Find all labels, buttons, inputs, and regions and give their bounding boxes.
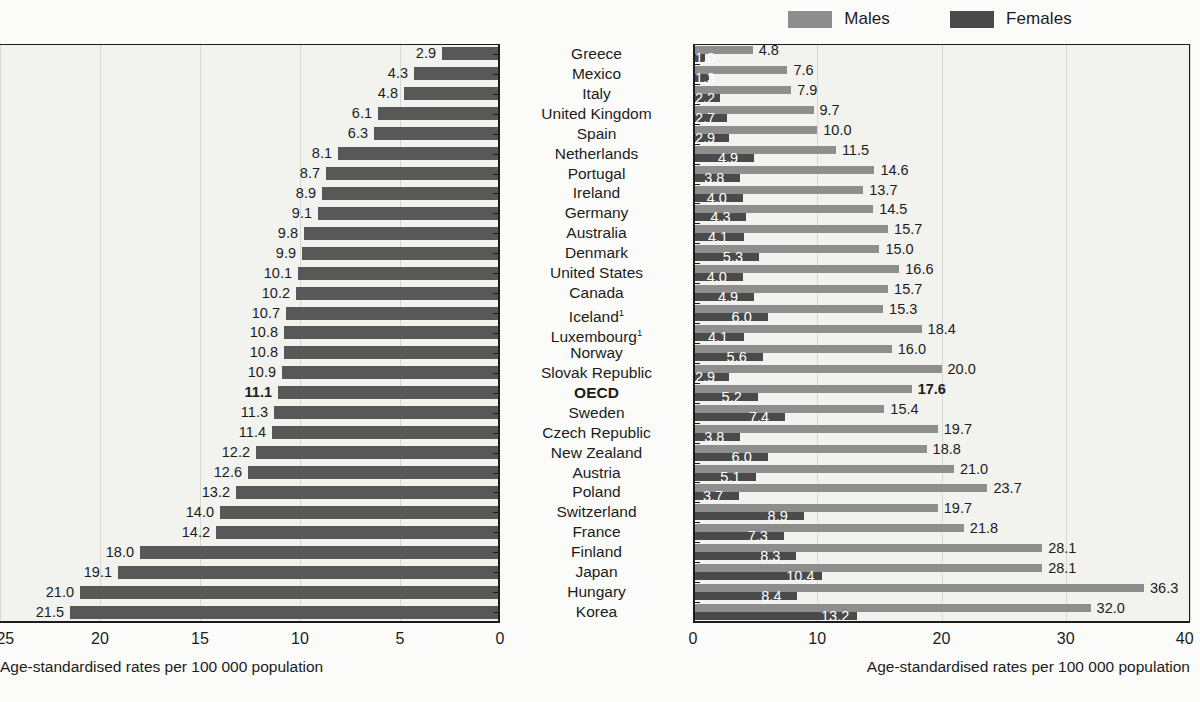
right-x-tick-label: 20 xyxy=(933,630,951,648)
right-chart-panel: 4.81.07.61.37.92.29.72.710.02.911.54.914… xyxy=(693,44,1190,622)
country-name: Iceland xyxy=(569,308,619,325)
total-bar-row: 11.3 xyxy=(0,403,500,423)
gender-bar-row: 15.74.1 xyxy=(693,223,1190,243)
right-x-tick-label: 30 xyxy=(1057,630,1075,648)
country-name: OECD xyxy=(574,384,619,401)
total-bar xyxy=(322,187,500,200)
gender-bar-row: 28.18.3 xyxy=(693,542,1190,562)
country-label: Hungary xyxy=(500,584,693,600)
country-footnote-marker: 1 xyxy=(619,307,624,318)
total-bar xyxy=(302,247,500,260)
country-label: OECD xyxy=(500,385,693,401)
total-bar xyxy=(378,107,500,120)
left-x-tick-label: 5 xyxy=(396,630,405,648)
country-label: Greece xyxy=(500,46,693,62)
country-label: Ireland xyxy=(500,185,693,201)
males-value-label: 14.6 xyxy=(880,164,908,177)
gender-bar-row: 23.73.7 xyxy=(693,482,1190,502)
country-name: Mexico xyxy=(572,65,621,82)
total-bar xyxy=(304,227,500,240)
total-value-label: 10.2 xyxy=(262,287,290,300)
total-bar-row: 21.0 xyxy=(0,582,500,602)
males-value-label: 14.5 xyxy=(879,203,907,216)
gender-bar-row: 28.110.4 xyxy=(693,562,1190,582)
country-label: Finland xyxy=(500,544,693,560)
total-bar xyxy=(404,87,500,100)
country-label: Canada xyxy=(500,285,693,301)
gender-bar-row: 7.92.2 xyxy=(693,84,1190,104)
left-x-tick-label: 15 xyxy=(191,630,209,648)
total-value-label: 6.3 xyxy=(348,127,368,140)
gender-bar-row: 9.72.7 xyxy=(693,104,1190,124)
legend: MalesFemales xyxy=(690,0,1170,38)
females-bar xyxy=(693,453,768,461)
country-name: Sweden xyxy=(568,404,624,421)
gender-bar-row: 15.05.3 xyxy=(693,243,1190,263)
left-chart-panel: 2.94.34.86.16.38.18.78.99.19.89.910.110.… xyxy=(0,44,500,622)
total-bar xyxy=(70,606,500,619)
total-bar-row: 10.1 xyxy=(0,263,500,283)
country-name: Slovak Republic xyxy=(541,364,652,381)
total-value-label: 18.0 xyxy=(106,546,134,559)
country-label: New Zealand xyxy=(500,445,693,461)
males-value-label: 10.0 xyxy=(823,124,851,137)
males-value-label: 28.1 xyxy=(1048,542,1076,555)
country-name: New Zealand xyxy=(551,444,642,461)
total-bar xyxy=(296,287,500,300)
country-label: Japan xyxy=(500,564,693,580)
total-bar-row: 8.9 xyxy=(0,184,500,204)
right-axis-caption: Age-standardised rates per 100 000 popul… xyxy=(867,658,1190,676)
total-value-label: 9.8 xyxy=(278,227,298,240)
country-footnote-marker: 1 xyxy=(637,327,642,338)
total-bar xyxy=(216,526,500,539)
males-bar xyxy=(693,305,883,313)
total-value-label: 4.8 xyxy=(378,87,398,100)
total-bar xyxy=(236,486,500,499)
country-name: Czech Republic xyxy=(542,424,651,441)
total-bar xyxy=(326,167,500,180)
total-value-label: 2.9 xyxy=(416,47,436,60)
total-bar xyxy=(318,207,500,220)
country-name: Ireland xyxy=(573,184,620,201)
country-name: Italy xyxy=(582,85,610,102)
total-value-label: 8.1 xyxy=(312,147,332,160)
females-bar xyxy=(693,413,785,421)
total-bar xyxy=(278,386,500,399)
gender-bar-row: 36.38.4 xyxy=(693,582,1190,602)
total-bar-row: 4.8 xyxy=(0,84,500,104)
total-bar xyxy=(80,586,500,599)
total-value-label: 10.9 xyxy=(248,366,276,379)
country-label: Italy xyxy=(500,86,693,102)
total-bar-row: 6.1 xyxy=(0,104,500,124)
males-bar xyxy=(693,405,884,413)
males-value-label: 15.0 xyxy=(885,243,913,256)
total-bar xyxy=(338,147,500,160)
country-label: Netherlands xyxy=(500,146,693,162)
total-bar-row: 9.9 xyxy=(0,243,500,263)
country-label: United Kingdom xyxy=(500,106,693,122)
gender-bar-row: 21.05.1 xyxy=(693,463,1190,483)
gender-bar-row: 19.78.9 xyxy=(693,502,1190,522)
total-bar xyxy=(272,426,500,439)
left-x-tick-label: 0 xyxy=(496,630,505,648)
total-value-label: 10.7 xyxy=(252,307,280,320)
total-bar-row: 12.6 xyxy=(0,463,500,483)
males-value-label: 36.3 xyxy=(1150,582,1178,595)
total-value-label: 21.0 xyxy=(46,586,74,599)
left-x-tick-label: 10 xyxy=(291,630,309,648)
males-value-label: 21.8 xyxy=(970,522,998,535)
left-x-tick-label: 20 xyxy=(91,630,109,648)
gender-bar-row: 18.86.0 xyxy=(693,443,1190,463)
legend-swatch-males xyxy=(788,11,832,28)
left-plot-area: 2.94.34.86.16.38.18.78.99.19.89.910.110.… xyxy=(0,44,500,622)
males-bar xyxy=(693,484,987,492)
total-bar xyxy=(284,326,500,339)
country-label: Australia xyxy=(500,225,693,241)
country-name: France xyxy=(572,523,620,540)
total-bar xyxy=(414,67,500,80)
total-value-label: 11.3 xyxy=(241,406,268,419)
gender-bar-row: 15.36.0 xyxy=(693,303,1190,323)
country-label: Slovak Republic xyxy=(500,365,693,381)
left-x-axis: 2520151050 xyxy=(0,624,500,654)
males-value-label: 11.5 xyxy=(842,144,869,157)
